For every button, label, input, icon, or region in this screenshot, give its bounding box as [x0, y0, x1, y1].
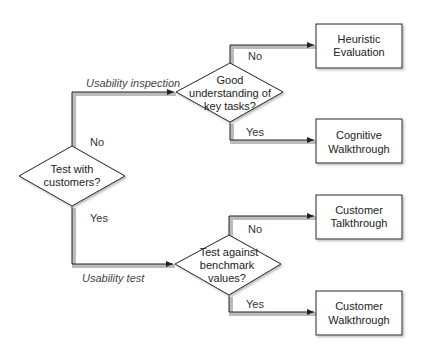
svg-text:Heuristic: Heuristic [338, 33, 381, 45]
decision-test-with-customers: Test with customers? [19, 146, 125, 206]
svg-text:customers?: customers? [44, 176, 101, 188]
svg-text:Cognitive: Cognitive [336, 129, 382, 141]
svg-text:Customer: Customer [335, 204, 383, 216]
flowchart-canvas: Usability inspection No Yes Usability te… [0, 0, 421, 351]
edge-d2-to-o2 [230, 122, 316, 142]
edge-branch-no-d3: No [248, 223, 262, 235]
outcome-customer-walkthrough: Customer Walkthrough [316, 291, 402, 335]
svg-text:Walkthrough: Walkthrough [328, 143, 389, 155]
svg-text:Evaluation: Evaluation [333, 46, 384, 58]
svg-text:Talkthrough: Talkthrough [331, 217, 388, 229]
edge-branch-no-d2: No [248, 50, 262, 62]
svg-text:Customer: Customer [335, 300, 383, 312]
svg-text:Test with: Test with [51, 163, 94, 175]
outcome-heuristic-evaluation: Heuristic Evaluation [316, 24, 402, 68]
edge-branch-yes-d3: Yes [246, 298, 264, 310]
svg-text:understanding of: understanding of [189, 87, 272, 99]
decision-good-understanding: Good understanding of key tasks? [176, 63, 283, 122]
decision-test-against-benchmark: Test against benchmark values? [175, 235, 281, 295]
edge-d1-to-d3 [72, 206, 175, 266]
edge-label-usability-inspection: Usability inspection [86, 77, 180, 89]
edge-d2-to-o1 [230, 45, 316, 65]
edge-branch-yes-d2: Yes [246, 126, 264, 138]
svg-text:Good: Good [217, 74, 244, 86]
edge-d1-to-d2 [72, 92, 176, 148]
edge-d3-to-o3 [229, 216, 316, 237]
edge-branch-yes-d1: Yes [90, 212, 108, 224]
svg-text:benchmark: benchmark [200, 259, 255, 271]
edge-branch-no-d1: No [90, 136, 104, 148]
svg-text:values?: values? [208, 272, 246, 284]
outcome-customer-talkthrough: Customer Talkthrough [316, 195, 402, 239]
edge-label-usability-test: Usability test [82, 272, 145, 284]
svg-text:Test against: Test against [200, 246, 259, 258]
svg-text:Walkthrough: Walkthrough [328, 314, 389, 326]
svg-text:key tasks?: key tasks? [204, 100, 256, 112]
outcome-cognitive-walkthrough: Cognitive Walkthrough [316, 119, 402, 163]
edge-d3-to-o4 [229, 295, 316, 314]
